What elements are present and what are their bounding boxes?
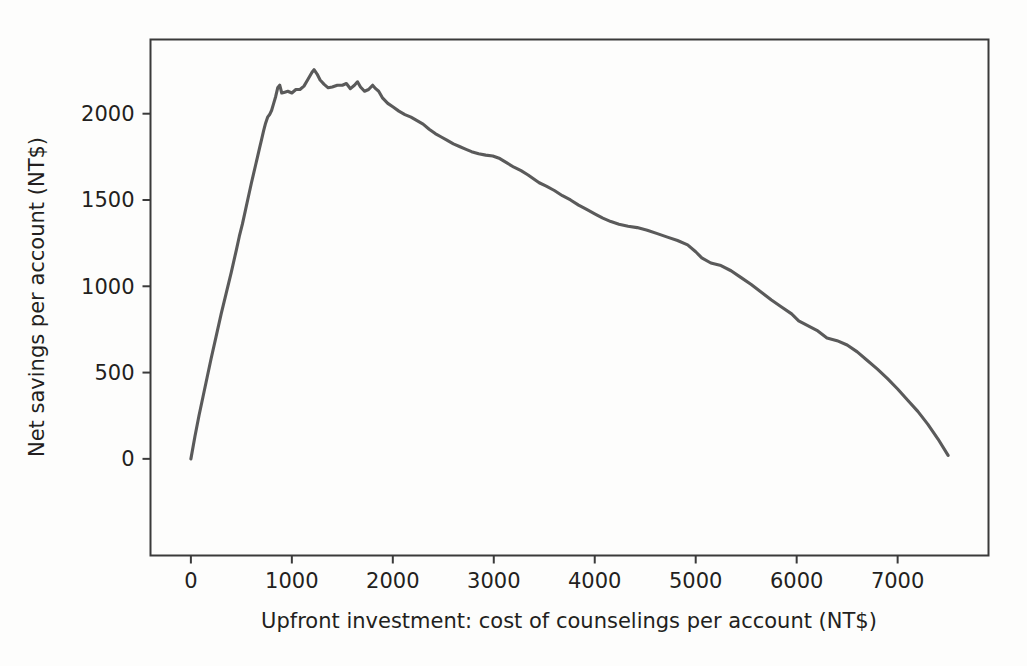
x-tick-label: 1000 xyxy=(265,569,318,593)
x-tick-label: 7000 xyxy=(871,569,924,593)
y-tick-label: 0 xyxy=(121,447,134,471)
x-tick-label: 5000 xyxy=(669,569,722,593)
x-axis-label: Upfront investment: cost of counselings … xyxy=(261,609,877,633)
y-tick-label: 1000 xyxy=(81,275,134,299)
x-tick-label: 0 xyxy=(184,569,197,593)
y-tick-label: 2000 xyxy=(81,102,134,126)
x-tick-label: 6000 xyxy=(770,569,823,593)
net-savings-line-chart: 01000200030004000500060007000 0500100015… xyxy=(0,0,1027,666)
figure-background xyxy=(0,0,1027,666)
x-tick-label: 3000 xyxy=(467,569,520,593)
x-tick-label: 4000 xyxy=(568,569,621,593)
figure-container: 01000200030004000500060007000 0500100015… xyxy=(0,0,1027,666)
y-tick-label: 500 xyxy=(94,361,134,385)
y-tick-label: 1500 xyxy=(81,188,134,212)
x-tick-label: 2000 xyxy=(366,569,419,593)
y-axis-label: Net savings per account (NT$) xyxy=(25,137,49,457)
